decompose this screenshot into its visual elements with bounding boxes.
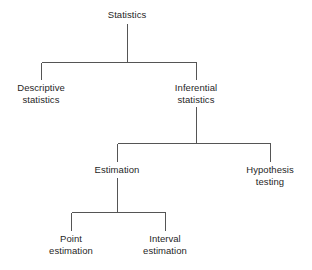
node-statistics-line1: Statistics bbox=[108, 9, 147, 20]
node-interval-estimation-line1: Interval bbox=[149, 233, 181, 244]
node-inferential-statistics-line1: Inferential bbox=[175, 82, 217, 93]
node-interval-estimation-line2: estimation bbox=[143, 245, 187, 257]
node-point-estimation-line1: Point bbox=[60, 233, 82, 244]
node-point-estimation-line2: estimation bbox=[49, 245, 93, 257]
node-hypothesis-testing-line1: Hypothesis bbox=[246, 164, 294, 175]
node-inferential-statistics-line2: statistics bbox=[175, 94, 217, 106]
statistics-tree-diagram: Statistics Descriptive statistics Infere… bbox=[0, 0, 312, 270]
node-point-estimation: Point estimation bbox=[49, 233, 93, 256]
tree-connector-lines bbox=[0, 0, 312, 270]
node-descriptive-statistics-line2: statistics bbox=[17, 94, 65, 106]
node-estimation: Estimation bbox=[95, 164, 140, 176]
node-statistics: Statistics bbox=[108, 9, 147, 21]
node-inferential-statistics: Inferential statistics bbox=[175, 82, 217, 105]
node-hypothesis-testing: Hypothesis testing bbox=[246, 164, 294, 187]
node-descriptive-statistics-line1: Descriptive bbox=[17, 82, 65, 93]
node-interval-estimation: Interval estimation bbox=[143, 233, 187, 256]
node-descriptive-statistics: Descriptive statistics bbox=[17, 82, 65, 105]
node-hypothesis-testing-line2: testing bbox=[246, 176, 294, 188]
node-estimation-line1: Estimation bbox=[95, 164, 140, 175]
